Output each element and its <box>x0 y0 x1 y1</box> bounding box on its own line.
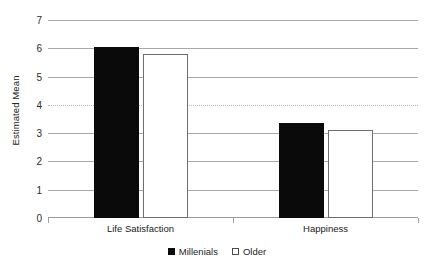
y-axis-tick-labels: 01234567 <box>0 20 48 218</box>
y-axis-tick-label: 3 <box>8 128 48 139</box>
y-axis-tick-label: 6 <box>8 43 48 54</box>
bar-chart: Estimated Mean 01234567 Life Satisfactio… <box>0 0 434 269</box>
plot-area <box>48 20 418 218</box>
y-axis-tick-label: 4 <box>8 99 48 110</box>
bar-millenials-happiness <box>279 123 324 218</box>
y-axis-tick-label: 7 <box>8 15 48 26</box>
x-axis-category-label: Happiness <box>303 223 348 234</box>
legend-swatch-icon <box>232 248 239 255</box>
x-axis-tick <box>418 218 419 223</box>
chart-legend: MillenialsOlder <box>0 246 434 257</box>
y-axis-tick-label: 1 <box>8 184 48 195</box>
bar-older-happiness <box>328 130 373 218</box>
y-axis-tick-label: 0 <box>8 213 48 224</box>
y-axis-tick-label: 5 <box>8 71 48 82</box>
x-axis-category-label: Life Satisfaction <box>107 223 174 234</box>
x-axis-category-labels: Life SatisfactionHappiness <box>48 223 418 239</box>
legend-label: Millenials <box>179 246 218 257</box>
gridline <box>48 20 418 21</box>
bar-older-life-satisfaction <box>143 54 188 218</box>
legend-label: Older <box>243 246 266 257</box>
legend-swatch-icon <box>168 248 175 255</box>
legend-item-older: Older <box>232 246 266 257</box>
bar-millenials-life-satisfaction <box>94 47 139 218</box>
y-axis-tick-label: 2 <box>8 156 48 167</box>
legend-item-millenials: Millenials <box>168 246 218 257</box>
